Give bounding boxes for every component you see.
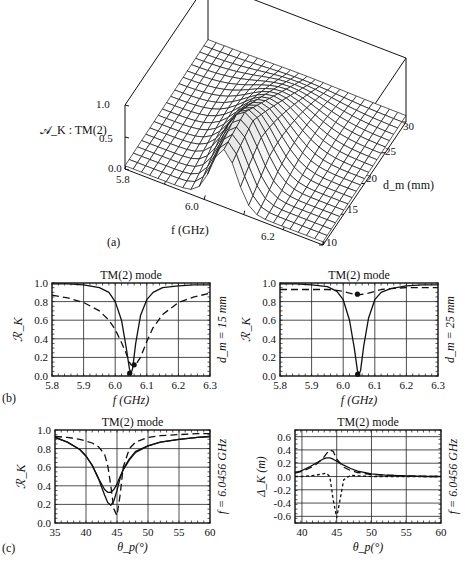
plot-b-left: 5.85.96.06.16.26.30.00.20.40.60.81.0TM(2… [11,268,229,407]
x-tick-label: 6.2 [400,379,414,391]
x-tick-mark [204,195,205,199]
x-tick-label: 55 [174,526,186,538]
x-tick-label: 45 [112,526,124,538]
x-tick-label: 6.1 [140,379,154,391]
plot-frame [55,430,210,523]
y-tick-label: 0.4 [262,333,276,345]
x-tick-label: 6.1 [368,379,382,391]
y-tick-label: 0.4 [277,444,291,456]
x-tick-label: 55 [401,526,413,538]
y-tick-15: 15 [347,203,359,215]
box-edge [208,0,406,58]
y-tick-label: 0.6 [277,431,291,443]
data-marker [132,362,137,367]
panel-label-b: (b) [2,391,16,405]
y-tick-label: 0.8 [262,296,276,308]
series-short-dashed [295,473,441,518]
plot-c-right: 4045505560-0.6-0.4-0.20.00.20.40.6TM(2) … [254,415,460,554]
y-tick-label: 1.0 [37,424,51,436]
x-tick-label: 35 [50,526,62,538]
y-tick-30: 30 [403,120,415,132]
x-axis-label: θ_p(°) [353,540,384,554]
series-solid-2 [55,437,210,506]
plot-title: TM(2) mode [102,415,164,429]
z-axis-label: 𝒜_K : TM(2) [40,123,107,137]
plot-title: TM(2) mode [328,268,390,282]
x-tick-label: 6.3 [431,379,445,391]
x-axis-label: f (GHz) [113,393,149,407]
y-tick-label: 0.2 [277,457,291,469]
data-marker [355,292,360,297]
y-axis-label: ℛ_K [14,464,28,489]
y-tick-label: 0.2 [37,498,51,510]
x-tick-6.2: 6.2 [261,230,275,242]
x-axis-label: θ_p(°) [117,540,148,554]
x-tick-label: 6.3 [203,379,217,391]
surface-mesh [125,40,406,242]
x-tick-label: 5.9 [305,379,319,391]
x-tick-label: 40 [296,526,308,538]
series-dashed [52,293,210,366]
z-tick-mark [125,105,129,106]
x-tick-label: 6.2 [172,379,186,391]
y-tick-label: 0.8 [37,443,51,455]
data-marker [127,371,132,376]
series-solid [280,284,438,374]
x-axis-label: f (GHz) [171,223,209,237]
y-tick-label: 0.2 [262,351,276,363]
x-tick-label: 45 [331,526,343,538]
x-tick-5.8: 5.8 [116,173,130,185]
z-tick-1.0: 1.0 [96,98,110,110]
x-tick-label: 6.0 [336,379,350,391]
x-tick-label: 60 [436,526,448,538]
x-tick-label: 5.9 [77,379,91,391]
y-axis-label: ℛ_K [11,317,25,342]
side-annotation: d_m = 15 mm [215,296,229,363]
z-tick-mark [125,169,129,170]
y-tick-20: 20 [366,172,378,184]
x-tick-6.0: 6.0 [185,200,199,212]
y-tick-label: 1.0 [34,277,48,289]
plot-title: TM(2) mode [100,268,162,282]
x-tick-label: 40 [81,526,93,538]
y-tick-label: 0.6 [262,314,276,326]
y-tick-label: -0.2 [274,484,291,496]
x-tick-mark [244,211,245,215]
x-tick-label: 50 [143,526,155,538]
side-annotation: f = 6.0456 GHz [215,438,229,514]
data-marker [355,372,360,377]
side-annotation: f = 6.0456 GHz [446,438,460,514]
y-tick-label: -0.6 [274,510,292,522]
y-tick-label: 0.6 [37,461,51,473]
y-axis-label: Δ_K (m) [254,456,268,498]
z-tick-mark [125,137,129,138]
y-axis-label: ℛ_K [239,317,253,342]
plot-title: TM(2) mode [337,415,399,429]
y-tick-label: 0.0 [277,471,291,483]
y-tick-10: 10 [326,236,338,248]
figure-canvas: 1.0 0.5 0.0 𝒜_K : TM(2) 5.8 6.0 6.2 f (G… [0,0,474,562]
y-tick-label: 0.0 [37,517,51,529]
surface-plot-3d: 1.0 0.5 0.0 𝒜_K : TM(2) 5.8 6.0 6.2 f (G… [40,0,434,249]
plot-frame [280,283,438,376]
plot-frame [52,283,210,376]
x-tick-label: 50 [366,526,378,538]
side-annotation: d_m = 25 mm [443,296,457,363]
y-tick-label: 1.0 [262,277,276,289]
y-axis-label: d_m (mm) [383,178,434,192]
y-tick-label: 0.0 [262,370,276,382]
y-tick-25: 25 [385,145,397,157]
y-tick-label: 0.4 [34,333,48,345]
x-tick-label: 6.0 [108,379,122,391]
plot-c-left: 3540455055600.00.20.40.60.81.0TM(2) mode… [14,415,229,554]
plot-b-right: 5.85.96.06.16.26.30.00.20.40.60.81.0TM(2… [239,268,457,407]
y-tick-label: 0.8 [34,296,48,308]
y-tick-label: -0.4 [274,497,292,509]
panel-label-c: (c) [2,541,15,555]
series-dashed [55,434,210,516]
y-tick-label: 0.4 [37,480,51,492]
series-solid [52,284,210,373]
x-tick-label: 60 [205,526,217,538]
x-axis-label: f (GHz) [341,393,377,407]
y-tick-label: 0.0 [34,370,48,382]
